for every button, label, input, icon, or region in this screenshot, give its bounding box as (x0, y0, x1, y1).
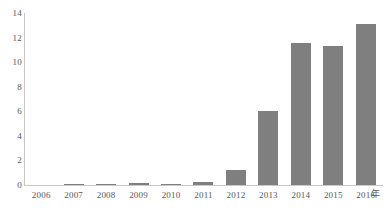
bar-slot (285, 13, 317, 185)
x-axis-line (24, 185, 383, 186)
y-tick-label: 12 (2, 34, 22, 43)
bar-2012[interactable] (226, 170, 246, 185)
x-tick-label-2008: 2008 (90, 189, 122, 205)
bar-2015[interactable] (323, 46, 343, 185)
x-tick-label-2015: 2015 (317, 189, 349, 205)
x-tick-label-2010: 2010 (155, 189, 187, 205)
bar-2014[interactable] (291, 43, 311, 186)
bar-2009[interactable] (129, 183, 149, 185)
y-tick-label: 10 (2, 58, 22, 67)
bar-slot (350, 13, 382, 185)
bar-2016[interactable] (356, 24, 376, 185)
bar-slot (187, 13, 219, 185)
x-tick-label-2009: 2009 (122, 189, 154, 205)
x-axis-tick-labels: 2006 2007 2008 2009 2010 2011 2012 2013 … (25, 189, 382, 205)
bar-slot (122, 13, 154, 185)
bar-chart: 14 12 10 8 6 4 2 0 2006 2007 2008 2009 2… (0, 0, 389, 213)
bar-2013[interactable] (258, 111, 278, 185)
bar-2007[interactable] (64, 184, 84, 185)
x-axis-unit-label: 年 (371, 188, 380, 200)
bar-2010[interactable] (161, 184, 181, 185)
bar-slot (252, 13, 284, 185)
bar-slot (57, 13, 89, 185)
y-tick-label: 2 (2, 156, 22, 165)
bar-slot (220, 13, 252, 185)
y-tick-label: 4 (2, 132, 22, 141)
bar-slot (317, 13, 349, 185)
x-tick-label-2006: 2006 (25, 189, 57, 205)
x-tick-label-2012: 2012 (220, 189, 252, 205)
bar-slot (90, 13, 122, 185)
x-tick-label-2014: 2014 (285, 189, 317, 205)
bar-series (25, 13, 382, 185)
bar-2011[interactable] (193, 182, 213, 185)
y-tick-label: 0 (2, 181, 22, 190)
x-tick-label-2011: 2011 (187, 189, 219, 205)
x-tick-label-2013: 2013 (252, 189, 284, 205)
x-tick-label-2007: 2007 (57, 189, 89, 205)
y-tick-label: 14 (2, 9, 22, 18)
y-tick-label: 8 (2, 83, 22, 92)
y-tick-label: 6 (2, 107, 22, 116)
y-axis-tick-labels: 14 12 10 8 6 4 2 0 (0, 0, 22, 213)
bar-slot (155, 13, 187, 185)
bar-2008[interactable] (96, 184, 116, 185)
bar-slot (25, 13, 57, 185)
